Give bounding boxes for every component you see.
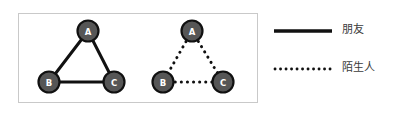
relationship-diagram: A B C A B — [0, 0, 395, 114]
legend-label-friend: 朋友 — [342, 24, 364, 35]
node-b2-label: B — [160, 78, 166, 88]
node-c-label: C — [111, 78, 117, 88]
legend-label-stranger: 陌生人 — [342, 62, 375, 73]
legend — [274, 31, 332, 69]
node-c2: C — [213, 72, 234, 93]
node-a2-label: A — [189, 27, 196, 37]
node-a2: A — [182, 21, 203, 42]
node-a-label: A — [85, 27, 92, 37]
node-b: B — [39, 72, 60, 93]
node-c: C — [104, 72, 125, 93]
node-b2: B — [153, 72, 174, 93]
node-a: A — [78, 21, 99, 42]
node-c2-label: C — [220, 78, 226, 88]
node-b-label: B — [46, 78, 52, 88]
